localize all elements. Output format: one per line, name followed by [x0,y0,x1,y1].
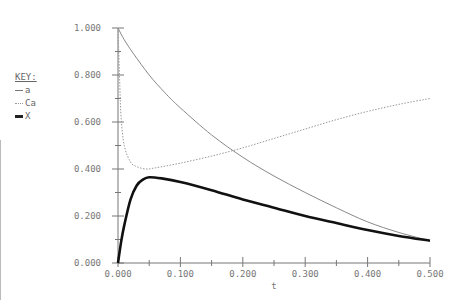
legend-title: KEY: [15,71,37,84]
dotted-line-swatch-icon [15,103,23,104]
x-axis-label: t [271,281,276,291]
legend-label: a [25,84,30,97]
series-line-x [118,177,430,263]
line-chart: 0.0000.2000.4000.6000.8001.0000.0000.100… [0,0,456,300]
legend-label: Ca [25,97,36,110]
chart-axes: 0.0000.2000.4000.6000.8001.0000.0000.100… [74,23,444,279]
y-tick-label: 0.200 [74,211,101,221]
solid-line-swatch-icon [15,90,23,91]
y-tick-label: 1.000 [74,23,101,33]
x-tick-label: 0.400 [354,269,381,279]
y-tick-label: 0.400 [74,164,101,174]
series-line-ca [118,28,430,169]
legend-label: X [25,110,30,123]
legend-item-ca: Ca [15,97,37,110]
legend-item-a: a [15,84,37,97]
legend-item-x: X [15,110,37,123]
chart-series [118,28,430,263]
legend: KEY: a Ca X [15,71,37,123]
bold-line-swatch-icon [15,115,23,118]
y-tick-label: 0.800 [74,70,101,80]
y-tick-label: 0.600 [74,117,101,127]
x-tick-label: 0.100 [167,269,194,279]
x-tick-label: 0.300 [292,269,319,279]
x-tick-label: 0.500 [416,269,443,279]
x-tick-label: 0.000 [104,269,131,279]
x-tick-label: 0.200 [229,269,256,279]
y-tick-label: 0.000 [74,258,101,268]
